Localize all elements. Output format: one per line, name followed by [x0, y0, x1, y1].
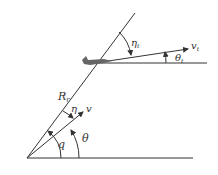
label-theta-t: θt [175, 52, 184, 64]
target-aircraft-icon [82, 56, 112, 65]
theta-arc [71, 130, 79, 158]
label-theta: θ [82, 132, 89, 145]
theta-t-arc [165, 52, 166, 63]
label-eta-t: ηt [131, 37, 140, 49]
guidance-diagram: Rr v η q θ vt θt ηt [0, 0, 218, 175]
label-v: v [86, 103, 92, 114]
label-R-r: Rr [57, 90, 70, 104]
label-eta: η [71, 103, 77, 114]
label-q: q [58, 138, 65, 151]
line-of-sight [27, 13, 135, 158]
eta-t-arc [119, 32, 131, 55]
pursuer-velocity-vector [27, 112, 83, 158]
label-v-t: vt [191, 40, 200, 52]
